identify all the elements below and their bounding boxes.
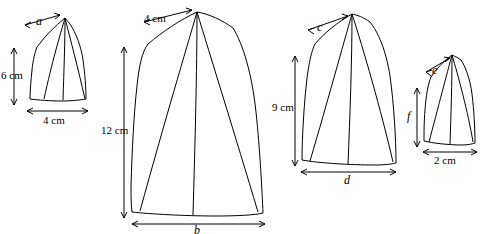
tent-4-dim-height xyxy=(414,88,420,147)
label-d: d xyxy=(344,174,350,186)
label-4cm-bottom-1: 4 cm xyxy=(43,115,65,126)
tent-1-dim-top xyxy=(25,13,60,28)
label-4cm-top-2: 4 cm xyxy=(144,13,166,24)
tent-shape-1 xyxy=(30,18,86,101)
label-9cm: 9 cm xyxy=(272,102,294,113)
label-b: b xyxy=(194,224,200,234)
label-c: c xyxy=(317,21,322,33)
label-f: f xyxy=(407,110,410,122)
label-12cm: 12 cm xyxy=(101,125,128,136)
tent-1-outline xyxy=(30,18,86,101)
label-6cm: 6 cm xyxy=(1,70,23,81)
label-2cm: 2 cm xyxy=(434,155,456,166)
label-e: e xyxy=(432,64,437,76)
tent-shape-2 xyxy=(131,12,263,216)
diagram-canvas: a 6 cm 4 cm 4 cm 12 cm b c 9 cm d e f 2 … xyxy=(0,0,483,234)
label-a: a xyxy=(36,15,42,27)
tent-shapes-svg xyxy=(0,0,483,234)
tent-shape-3 xyxy=(302,14,396,165)
